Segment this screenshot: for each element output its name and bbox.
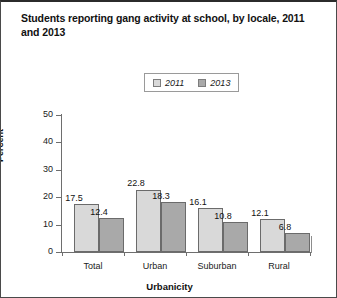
figure-container: Students reporting gang activity at scho… bbox=[0, 0, 337, 298]
x-category-suburban: Suburban bbox=[182, 261, 252, 271]
x-group-tick-2 bbox=[186, 252, 187, 256]
legend-label-2013: 2013 bbox=[210, 78, 230, 88]
legend-label-2011: 2011 bbox=[165, 78, 184, 88]
bar-value-total-2013: 12.4 bbox=[82, 207, 116, 217]
y-tick-label-50: 50 bbox=[29, 109, 53, 119]
x-category-total: Total bbox=[58, 261, 128, 271]
y-tick-label-0: 0 bbox=[29, 246, 53, 256]
y-tick-label-20: 20 bbox=[29, 191, 53, 201]
legend-swatch-2011-icon bbox=[153, 79, 161, 87]
bar-value-total-2011: 17.5 bbox=[57, 193, 91, 203]
bar-value-suburban-2013: 10.8 bbox=[206, 211, 240, 221]
legend-entry-2013[interactable]: 2013 bbox=[198, 78, 230, 88]
bar-urban-2013[interactable] bbox=[161, 202, 186, 252]
x-group-tick-4 bbox=[310, 252, 311, 256]
chart-title: Students reporting gang activity at scho… bbox=[21, 11, 317, 39]
x-axis-title: Urbanicity bbox=[1, 281, 337, 292]
bar-total-2013[interactable] bbox=[99, 218, 124, 252]
plot-right-edge bbox=[311, 236, 312, 253]
y-tick-label-10: 10 bbox=[29, 219, 53, 229]
y-axis-title: Percent bbox=[0, 129, 5, 162]
y-tick-0 bbox=[56, 252, 61, 253]
bar-suburban-2013[interactable] bbox=[223, 222, 248, 252]
bar-rural-2013[interactable] bbox=[285, 233, 310, 252]
bar-value-urban-2011: 22.8 bbox=[119, 178, 153, 188]
y-tick-30 bbox=[56, 170, 61, 171]
bar-value-urban-2013: 18.3 bbox=[144, 191, 178, 201]
x-group-tick-0 bbox=[62, 252, 63, 256]
y-tick-label-30: 30 bbox=[29, 164, 53, 174]
bar-value-rural-2013: 6.8 bbox=[268, 222, 302, 232]
x-group-tick-3 bbox=[248, 252, 249, 256]
legend-entry-2011[interactable]: 2011 bbox=[153, 78, 184, 88]
x-category-urban: Urban bbox=[120, 261, 190, 271]
x-group-tick-1 bbox=[124, 252, 125, 256]
y-tick-40 bbox=[56, 142, 61, 143]
chart-legend: 2011 2013 bbox=[144, 73, 239, 92]
bar-value-rural-2011: 12.1 bbox=[243, 208, 277, 218]
y-tick-10 bbox=[56, 225, 61, 226]
y-tick-label-40: 40 bbox=[29, 136, 53, 146]
y-tick-50 bbox=[56, 115, 61, 116]
bar-value-suburban-2011: 16.1 bbox=[181, 197, 215, 207]
x-category-rural: Rural bbox=[244, 261, 314, 271]
legend-swatch-2013-icon bbox=[198, 79, 206, 87]
